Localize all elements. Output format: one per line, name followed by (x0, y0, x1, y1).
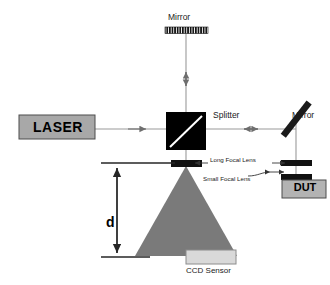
optical-diagram: Mirror Mirror Splitter LASER Long Focal … (0, 0, 330, 285)
label-dut: DUT (286, 182, 324, 193)
beam-splitter (166, 112, 206, 150)
label-laser: LASER (22, 120, 94, 134)
diagram-canvas (0, 0, 330, 285)
label-mirror-right: Mirror (292, 111, 314, 120)
label-long-focal-lens: Long Focal Lens (210, 157, 256, 163)
label-splitter: Splitter (213, 111, 239, 120)
long-focal-lens (171, 160, 202, 167)
long-focal-lens-right (281, 160, 312, 166)
ccd-sensor-box (186, 250, 236, 264)
label-ccd-sensor: CCD Sensor (186, 267, 231, 275)
label-mirror-top: Mirror (168, 13, 190, 22)
label-small-focal-lens: Small Focal Lens (203, 176, 250, 182)
small-focal-lens-leader (248, 172, 284, 176)
label-distance-d: d (106, 215, 115, 229)
small-focal-lens-right (281, 174, 312, 180)
mirror-top (165, 27, 208, 34)
